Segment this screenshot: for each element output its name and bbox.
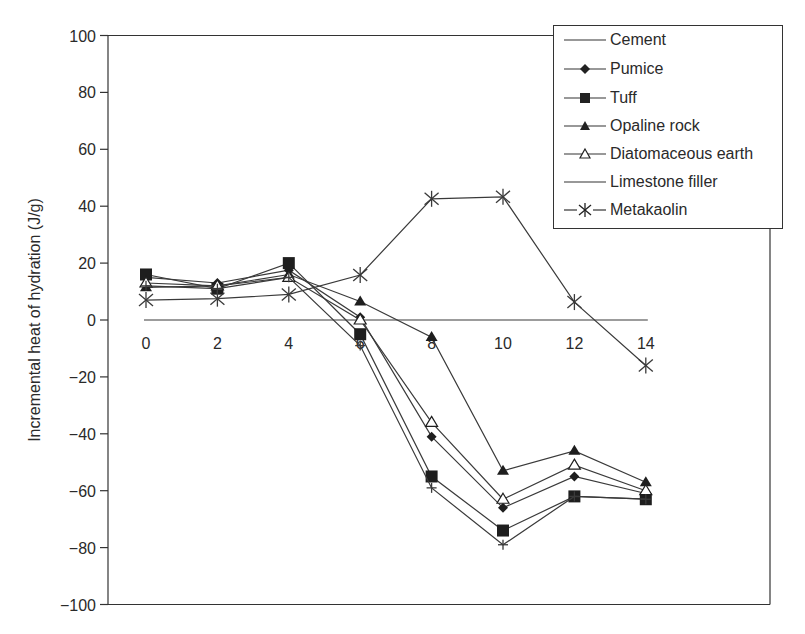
series-group	[139, 189, 653, 550]
y-tick-label: 40	[78, 198, 96, 215]
line-swatch-icon	[564, 169, 606, 195]
x-tick-label: 10	[494, 335, 512, 352]
asterisk-marker-icon	[567, 294, 581, 310]
square-marker-icon	[564, 85, 606, 111]
legend-label: Pumice	[610, 60, 663, 78]
y-tick-label: −20	[69, 369, 96, 386]
square-marker-icon	[354, 328, 366, 340]
y-axis-title: Incremental heat of hydration (J/g)	[26, 198, 43, 442]
x-tick-label: 12	[566, 335, 584, 352]
legend-item-opaline-rock: Opaline rock	[554, 113, 700, 139]
asterisk-marker-icon	[639, 358, 653, 374]
diamond-marker-icon	[564, 56, 606, 82]
y-tick-label: 80	[78, 84, 96, 101]
legend-label: Cement	[610, 31, 666, 49]
y-tick-label: −80	[69, 540, 96, 557]
y-tick-label: 20	[78, 255, 96, 272]
open-triangle-marker-icon	[564, 141, 606, 167]
open-triangle-marker-icon	[354, 314, 366, 324]
square-marker-icon	[283, 257, 295, 269]
open-triangle-marker-icon	[568, 459, 580, 469]
x-tick-label: 14	[637, 335, 655, 352]
x-tick-label: 2	[213, 335, 222, 352]
x-tick-label: 4	[284, 335, 293, 352]
filled-triangle-marker-icon	[568, 445, 580, 455]
y-tick-label: 0	[87, 312, 96, 329]
series-line	[146, 277, 646, 545]
y-tick-label: 100	[69, 28, 96, 45]
legend-item-pumice: Pumice	[554, 56, 663, 82]
diamond-marker-icon	[569, 471, 579, 481]
legend-item-cement: Cement	[554, 27, 666, 53]
line-swatch-icon	[564, 27, 606, 53]
series-limestone-filler	[141, 272, 651, 549]
legend-label: Limestone filler	[610, 173, 718, 191]
filled-triangle-marker-icon	[564, 113, 606, 139]
square-marker-icon	[497, 525, 509, 537]
y-tick-label: 60	[78, 141, 96, 158]
y-tick-label: −40	[69, 426, 96, 443]
open-triangle-marker-icon	[426, 416, 438, 426]
legend-label: Opaline rock	[610, 117, 700, 135]
legend-item-diatomaceous-earth: Diatomaceous earth	[554, 141, 753, 167]
legend-label: Metakaolin	[610, 201, 687, 219]
asterisk-marker-icon	[564, 197, 606, 223]
y-tick-label: −100	[60, 597, 96, 614]
legend-label: Diatomaceous earth	[610, 145, 753, 163]
legend-item-limestone-filler: Limestone filler	[554, 169, 718, 195]
legend-label: Tuff	[610, 89, 637, 107]
legend-item-metakaolin: Metakaolin	[554, 197, 687, 223]
x-tick-label: 0	[142, 335, 151, 352]
legend: Cement Pumice Tuff Opaline rock Diatomac…	[553, 25, 783, 229]
legend-item-tuff: Tuff	[554, 85, 637, 111]
y-tick-label: −60	[69, 483, 96, 500]
